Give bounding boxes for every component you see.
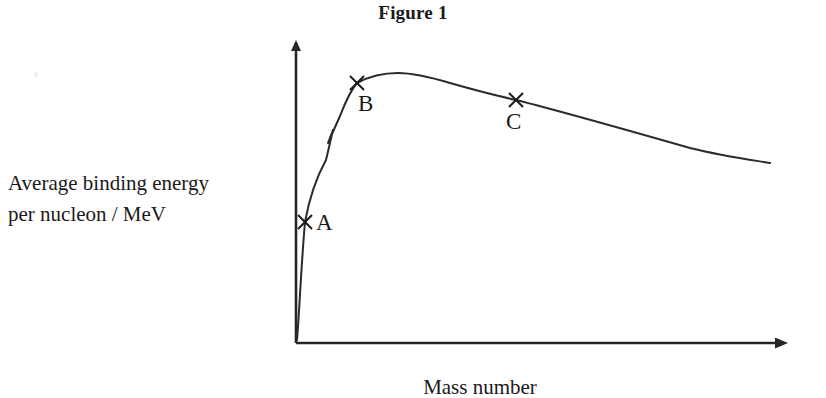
x-axis-label: Mass number <box>330 374 630 398</box>
marker-label-B: B <box>358 92 373 115</box>
marker-C <box>509 93 523 107</box>
marker-B <box>350 76 364 90</box>
marker-label-C: C <box>506 110 521 133</box>
marker-label-A: A <box>316 211 333 234</box>
